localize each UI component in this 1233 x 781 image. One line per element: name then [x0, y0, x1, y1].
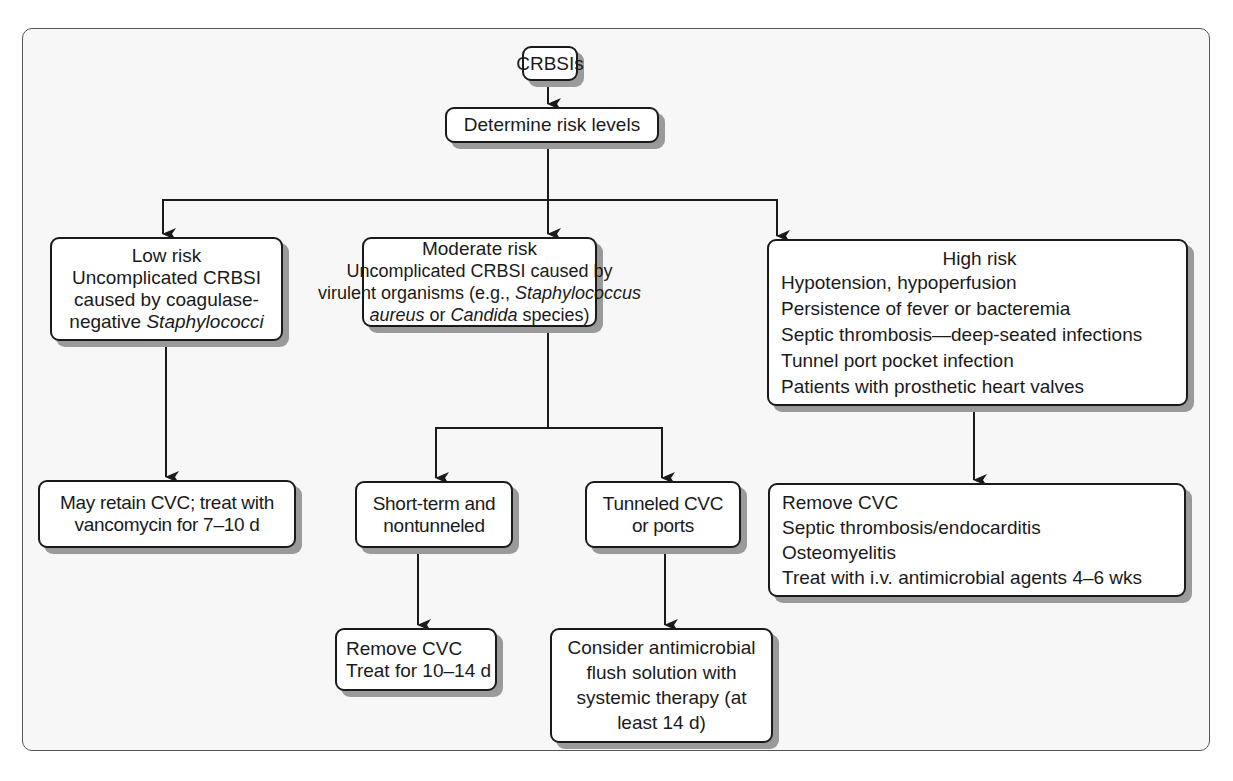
short-term-line-1: Short-term and: [373, 493, 496, 515]
node-high-outcome: Remove CVC Septic thrombosis/endocarditi…: [768, 483, 1186, 597]
node-short-term: Short-term and nontunneled: [355, 481, 513, 548]
moderate-risk-line-2: virulent organisms (e.g., Staphylococcus: [318, 282, 641, 304]
tunneled-outcome-line-3: systemic therapy (at: [577, 687, 747, 709]
low-risk-line-1: Uncomplicated CRBSI: [72, 267, 261, 289]
high-outcome-item: Septic thrombosis/endocarditis: [782, 517, 1041, 539]
node-crbsis-label: CRBSIs: [516, 53, 584, 75]
high-risk-item: Hypotension, hypoperfusion: [781, 272, 1017, 294]
tunneled-line-2: or ports: [632, 515, 694, 537]
high-outcome-item: Treat with i.v. antimicrobial agents 4–6…: [782, 567, 1142, 589]
node-crbsis: CRBSIs: [522, 46, 578, 81]
high-risk-item: Tunnel port pocket infection: [781, 350, 1014, 372]
short-term-line-2: nontunneled: [383, 515, 484, 537]
node-tunneled-outcome: Consider antimicrobial flush solution wi…: [550, 628, 773, 743]
high-outcome-item: Remove CVC: [782, 492, 898, 514]
node-determine-risk-label: Determine risk levels: [464, 114, 640, 136]
node-moderate-risk: Moderate risk Uncomplicated CRBSI caused…: [362, 237, 597, 327]
low-risk-line-3-prefix: negative: [69, 311, 146, 332]
moderate-risk-line-2-prefix: virulent organisms (e.g.,: [318, 283, 515, 303]
moderate-risk-title: Moderate risk: [422, 238, 537, 260]
moderate-risk-line-3: aureus or Candida species): [369, 304, 589, 326]
tunneled-outcome-line-2: flush solution with: [587, 662, 737, 684]
low-risk-title: Low risk: [132, 245, 202, 267]
node-low-risk: Low risk Uncomplicated CRBSI caused by c…: [50, 237, 283, 341]
moderate-risk-line-3-suffix: species): [518, 305, 590, 325]
high-risk-title: High risk: [943, 248, 1017, 270]
node-high-risk: High risk Hypotension, hypoperfusion Per…: [767, 239, 1188, 406]
low-outcome-line-1: May retain CVC; treat with: [60, 492, 274, 514]
moderate-risk-organism-1: Staphylococcus: [515, 283, 641, 303]
low-risk-organism: Staphylococci: [146, 311, 263, 332]
high-risk-item: Persistence of fever or bacteremia: [781, 298, 1070, 320]
high-outcome-item: Osteomyelitis: [782, 542, 896, 564]
moderate-risk-organism-2: Candida: [450, 305, 517, 325]
moderate-risk-line-3-mid: or: [424, 305, 450, 325]
low-outcome-line-2: vancomycin for 7–10 d: [75, 514, 260, 536]
high-risk-item: Septic thrombosis—deep-seated infections: [781, 324, 1142, 346]
node-determine-risk: Determine risk levels: [445, 107, 659, 143]
high-risk-item: Patients with prosthetic heart valves: [781, 376, 1084, 398]
node-tunneled: Tunneled CVC or ports: [585, 481, 741, 548]
tunneled-outcome-line-1: Consider antimicrobial: [568, 637, 756, 659]
short-outcome-line-1: Remove CVC: [346, 638, 462, 660]
tunneled-line-1: Tunneled CVC: [603, 493, 723, 515]
node-low-outcome: May retain CVC; treat with vancomycin fo…: [38, 480, 296, 548]
moderate-risk-organism-1b: aureus: [369, 305, 424, 325]
low-risk-line-3: negative Staphylococci: [69, 311, 263, 333]
tunneled-outcome-line-4: least 14 d): [617, 712, 706, 734]
short-outcome-line-2: Treat for 10–14 d: [346, 660, 491, 682]
moderate-risk-line-1: Uncomplicated CRBSI caused by: [346, 260, 612, 282]
node-short-outcome: Remove CVC Treat for 10–14 d: [335, 628, 497, 691]
low-risk-line-2: caused by coagulase-: [74, 289, 259, 311]
